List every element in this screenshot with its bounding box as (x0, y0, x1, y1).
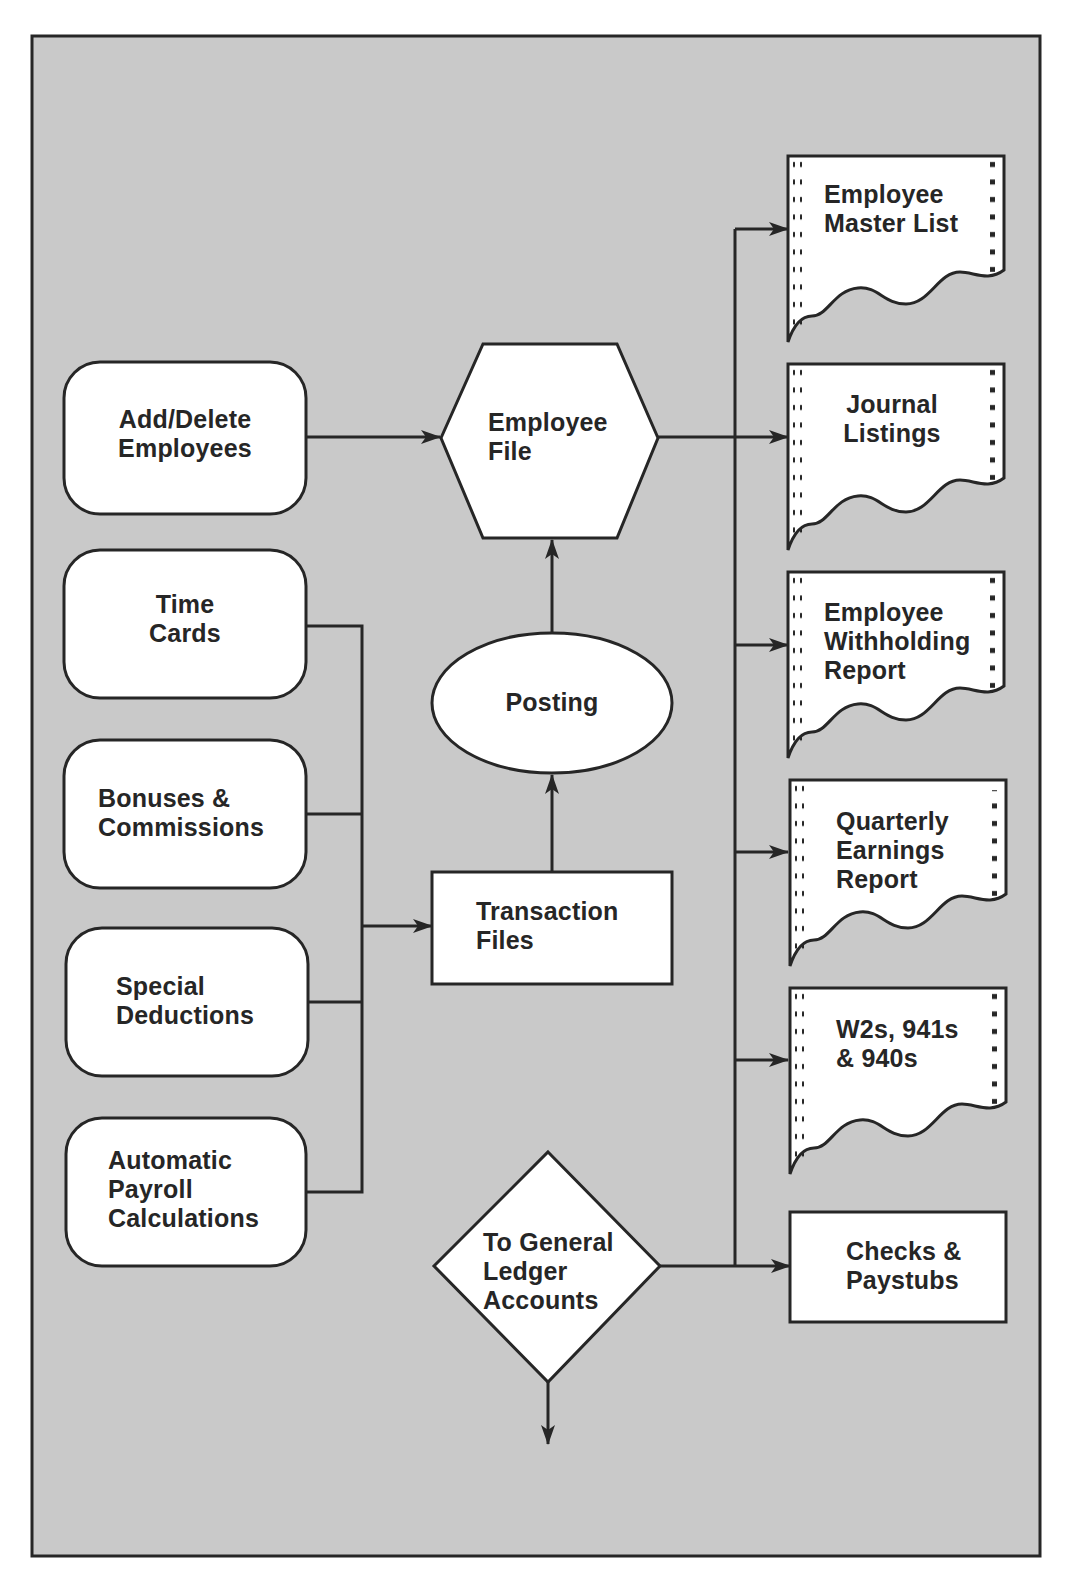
label-employee-master-list: Employee Master List (824, 180, 994, 238)
label-quarterly-earnings-report: Quarterly Earnings Report (836, 807, 996, 894)
label-journal-listings: Journal Listings (794, 390, 990, 448)
label-special-deductions: Special Deductions (116, 972, 306, 1030)
label-transaction-files: Transaction Files (476, 897, 666, 955)
label-automatic-payroll-calculations: Automatic Payroll Calculations (108, 1146, 304, 1233)
label-checks-paystubs: Checks & Paystubs (846, 1237, 996, 1295)
label-add-delete-employees: Add/Delete Employees (64, 405, 306, 463)
label-time-cards: Time Cards (64, 590, 306, 648)
label-w2s-941s-940s: W2s, 941s & 940s (836, 1015, 996, 1073)
label-employee-withholding-report: Employee Withholding Report (824, 598, 994, 685)
label-bonuses-commissions: Bonuses & Commissions (98, 784, 298, 842)
label-general-ledger: To General Ledger Accounts (483, 1228, 643, 1315)
label-employee-file: Employee File (488, 408, 638, 466)
label-posting: Posting (432, 688, 672, 717)
